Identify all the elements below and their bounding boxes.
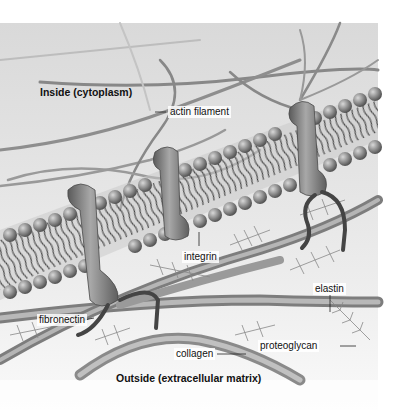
label-elastin: elastin	[313, 283, 346, 295]
label-fibronectin: fibronectin	[37, 314, 87, 326]
label-integrin: integrin	[182, 251, 219, 263]
label-inside-cytoplasm: Inside (cytoplasm)	[38, 86, 134, 98]
label-collagen: collagen	[174, 348, 215, 360]
label-outside-ecm: Outside (extracellular matrix)	[114, 372, 263, 384]
label-proteoglycan: proteoglycan	[258, 340, 319, 352]
label-actin-filament: actin filament	[168, 106, 231, 118]
